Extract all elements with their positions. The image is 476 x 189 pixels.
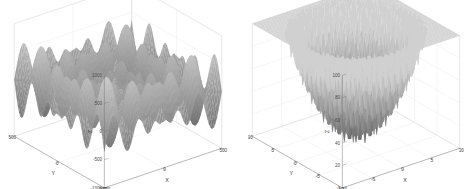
axis-label: X [403,177,407,183]
tick-label: 100 [332,73,340,78]
axis-label: Z [324,129,330,133]
tick-label: 80 [335,95,341,100]
surface-plot-left: -1000-50005001000-5000500-5000500ZYX [0,0,238,189]
tick-label: 0 [294,161,297,166]
tick-label: 500 [94,101,102,106]
tick-label: -10 [341,187,348,189]
tick-label: 0 [100,129,103,134]
axis-label: Y [289,170,293,176]
surface-plot-svg: -1000-50005001000-5000500-5000500ZYX [0,0,238,189]
axis-label: X [165,177,169,183]
tick-label: 0 [401,167,404,172]
surface-plot-svg: 020406080100-10-50510-10-50510ZYX [238,0,476,189]
tick-label: 40 [335,141,341,146]
tick-label: 500 [219,148,227,153]
tick-label: 0 [163,167,166,172]
tick-label: 5 [271,148,274,153]
tick-label: 10 [459,148,465,153]
tick-label: 60 [335,118,341,123]
tick-label: 1000 [92,73,103,78]
surface-mesh [252,0,460,143]
tick-label: 0 [56,161,59,166]
tick-label: 10 [248,135,254,140]
tick-label: 20 [335,163,341,168]
tick-label: -5 [371,177,376,182]
figure-root: -1000-50005001000-5000500-5000500ZYX 020… [0,0,476,189]
axis-label: Y [51,170,55,176]
surface-mesh [14,20,222,152]
surface-plot-right: 020406080100-10-50510-10-50510ZYX [238,0,476,189]
tick-label: 500 [8,135,16,140]
tick-label: 5 [431,158,434,163]
tick-label: -500 [101,187,111,189]
tick-label: -5 [316,174,321,179]
tick-label: -500 [93,157,103,162]
